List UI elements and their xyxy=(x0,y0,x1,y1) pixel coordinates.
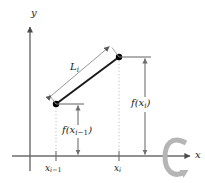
axes-group xyxy=(12,27,190,171)
chord-segment xyxy=(56,57,119,104)
length-extension-right xyxy=(112,48,119,58)
chord-group xyxy=(53,54,122,107)
f-right-close-paren: ) xyxy=(147,97,151,108)
f-left-subscript-op: −1 xyxy=(78,128,89,137)
f-left-close-paren: ) xyxy=(88,124,92,135)
tick-left-subscript-op: −1 xyxy=(52,166,62,174)
rotation-arrow-icon xyxy=(165,140,186,174)
length-dimension-group xyxy=(49,47,119,105)
y-axis-label: y xyxy=(31,8,37,18)
x-axis-label: x xyxy=(195,150,201,160)
f-left-name: f(x xyxy=(62,124,75,135)
tick-label-x-i-minus-1: xi−1 xyxy=(45,164,62,174)
segment-length-subscript: i xyxy=(77,65,79,74)
length-extension-left xyxy=(49,95,56,105)
f-right-label: f(xi) xyxy=(131,98,150,109)
revolution-surface-figure: y x Li f(xi−1) f(xi) xi−1 xi xyxy=(0,0,205,183)
f-left-label: f(xi−1) xyxy=(62,125,92,136)
figure-canvas xyxy=(0,0,205,183)
f-right-name: f(x xyxy=(131,97,144,108)
tick-right-subscript: i xyxy=(119,166,121,174)
segment-length-label: Li xyxy=(70,62,79,73)
segment-length-letter: L xyxy=(70,61,77,72)
tick-label-x-i: xi xyxy=(114,164,121,174)
